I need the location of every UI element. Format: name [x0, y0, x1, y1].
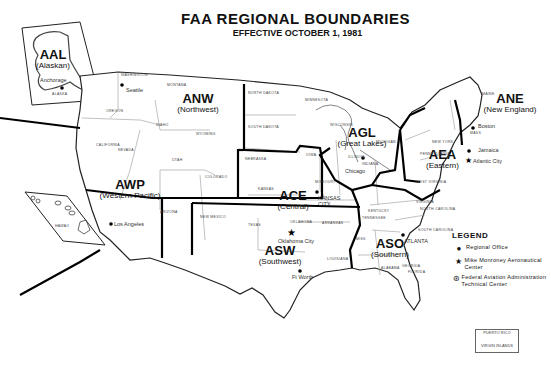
- legend-item-monroney: ★ Mike Monroney Aeronautical Center: [452, 257, 551, 270]
- state-minnesota: MINNESOTA: [305, 98, 328, 102]
- circled-star-icon: ⊛: [452, 274, 462, 283]
- us-map: ★ ★: [0, 0, 551, 367]
- dot-icon: ●: [452, 244, 466, 253]
- region-name: (Southern): [365, 251, 415, 259]
- city-atlanta: ATLANTA: [404, 238, 428, 244]
- state-california: CALIFORNIA: [96, 143, 120, 147]
- city-los-angeles: Los Angeles: [114, 221, 144, 227]
- state-utah: UTAH: [172, 158, 182, 162]
- state-indiana: INDIANA: [362, 162, 378, 166]
- city-chicago: Chicago: [345, 168, 365, 174]
- puerto-rico-inset: PUERTO RICO VIRGIN ISLANDS: [475, 329, 519, 353]
- state-colorado: COLORADO: [205, 175, 227, 179]
- region-anw: ANW (Northwest): [168, 92, 228, 114]
- state-michigan: MICHIGAN: [376, 140, 396, 144]
- legend-item-regional-office: ● Regional Office: [452, 244, 551, 253]
- legend-label: Regional Office: [466, 244, 508, 251]
- state-alaska: ALASKA: [52, 92, 67, 96]
- legend: LEGEND ● Regional Office ★ Mike Monroney…: [452, 231, 551, 287]
- region-name: (New England): [480, 106, 540, 114]
- region-code: ACE: [268, 189, 318, 203]
- city-kansas-city: KANSAS CITY: [318, 195, 338, 207]
- state-alabama: ALABAMA: [381, 266, 400, 270]
- city-fort-worth: Ft Worth: [292, 274, 313, 280]
- state-kansas: KANSAS: [258, 187, 274, 191]
- region-name: (Alaskan): [28, 62, 78, 70]
- state-north-dakota: NORTH DAKOTA: [248, 91, 279, 95]
- state-south-carolina: SOUTH CAROLINA: [418, 228, 453, 232]
- state-north-carolina: NORTH CAROLINA: [420, 207, 455, 211]
- puerto-rico-label: PUERTO RICO: [476, 330, 518, 335]
- state-kentucky: KENTUCKY: [368, 209, 389, 213]
- state-louisiana: LOUISIANA: [327, 257, 348, 261]
- region-code: AWP: [95, 178, 165, 192]
- state-oregon: OREGON: [106, 109, 123, 113]
- region-name: (Central): [268, 203, 318, 211]
- region-code: AGL: [332, 126, 392, 140]
- legend-title: LEGEND: [452, 231, 551, 240]
- state-wyoming: WYOMING: [196, 132, 216, 136]
- state-arizona: ARIZONA: [160, 210, 178, 214]
- region-name: (Western Pacific): [95, 192, 165, 200]
- state-maine: MAINE: [482, 92, 495, 96]
- legend-label: Federal Aviation Administration Technica…: [462, 274, 551, 287]
- city-boston: Boston: [478, 123, 495, 129]
- city-seattle: Seattle: [126, 87, 143, 93]
- monroney-star-marker: ★: [287, 227, 296, 238]
- state-nebraska: NEBRASKA: [245, 157, 266, 161]
- region-name: (Southwest): [250, 258, 310, 266]
- state-pennsylvania: PENNSYLVANIA: [420, 152, 450, 156]
- state-missouri: MISSOURI: [315, 180, 335, 184]
- region-awp: AWP (Western Pacific): [95, 178, 165, 200]
- region-code: ANW: [168, 92, 228, 106]
- region-name: (Eastern): [420, 162, 465, 170]
- state-florida: FLORIDA: [408, 270, 425, 274]
- state-south-dakota: SOUTH DAKOTA: [248, 125, 279, 129]
- region-aal: AAL (Alaskan): [28, 48, 78, 70]
- state-hawaii: HAWAII: [55, 224, 69, 228]
- state-new-mexico: NEW MEXICO: [200, 215, 226, 219]
- city-oklahoma-city: Oklahoma City: [278, 238, 314, 244]
- state-nevada: NEVADA: [118, 148, 134, 152]
- state-texas: TEXAS: [248, 223, 261, 227]
- region-agl: AGL (Great Lakes): [332, 126, 392, 148]
- region-ace: ACE (Central): [268, 189, 318, 211]
- state-new-york: NEW YORK: [432, 140, 453, 144]
- legend-item-tech-center: ⊛ Federal Aviation Administration Techni…: [452, 274, 551, 287]
- region-code: ASW: [250, 244, 310, 258]
- state-oklahoma: OKLAHOMA: [290, 220, 312, 224]
- state-iowa: IOWA: [306, 153, 316, 157]
- region-code: AAL: [28, 48, 78, 62]
- state-illinois: ILLINOIS: [348, 155, 365, 159]
- state-georgia: GEORGIA: [402, 264, 420, 268]
- state-mississippi: MISS: [356, 237, 366, 241]
- city-anchorage: Anchorage: [40, 77, 67, 83]
- state-west-virginia: WEST VIRGINIA: [416, 180, 446, 184]
- state-virginia: VIRGINIA: [416, 200, 434, 204]
- tech-center-star-marker: ★: [465, 156, 472, 165]
- region-asw: ASW (Southwest): [250, 244, 310, 266]
- state-idaho: IDAHO: [156, 123, 169, 127]
- city-atlantic-city: Atlantic City: [473, 158, 502, 164]
- virgin-islands-label: VIRGIN ISLANDS: [476, 343, 518, 348]
- state-wisconsin: WISCONSIN: [330, 123, 353, 127]
- state-tennessee: TENNESSEE: [362, 216, 386, 220]
- region-name: (Northwest): [168, 106, 228, 114]
- state-mass: MASS: [470, 131, 481, 135]
- city-jamaica: Jamaica: [478, 147, 498, 153]
- state-arkansas: ARKANSAS: [322, 221, 343, 225]
- star-icon: ★: [452, 257, 465, 266]
- legend-label: Mike Monroney Aeronautical Center: [465, 257, 551, 270]
- state-washington: WASHINGTON: [121, 73, 148, 77]
- state-montana: MONTANA: [167, 83, 186, 87]
